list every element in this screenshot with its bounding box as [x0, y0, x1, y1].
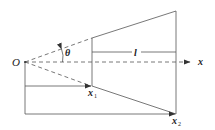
- lower-cone-line-solid: [92, 86, 176, 114]
- length-label: l: [134, 47, 137, 58]
- x1-label: x 1: [87, 87, 97, 99]
- x1-label-main: x: [87, 87, 93, 98]
- upper-cone-line-dashed: [25, 38, 92, 62]
- lower-cone-line-dashed: [25, 62, 91, 86]
- origin-point: [24, 61, 26, 63]
- origin-label: O: [12, 56, 20, 68]
- x2-label-subscript: 2: [178, 121, 181, 127]
- x1-label-subscript: 1: [94, 93, 97, 99]
- theta-label: θ: [65, 47, 71, 58]
- x-axis-label: x: [197, 56, 203, 67]
- theta-angle-arc: [62, 49, 64, 62]
- cone-geometry-diagram: O θ l x x 1 x 2: [0, 0, 215, 130]
- x2-label: x 2: [171, 115, 181, 127]
- x2-label-main: x: [171, 115, 177, 126]
- upper-cone-line-solid: [92, 11, 176, 38]
